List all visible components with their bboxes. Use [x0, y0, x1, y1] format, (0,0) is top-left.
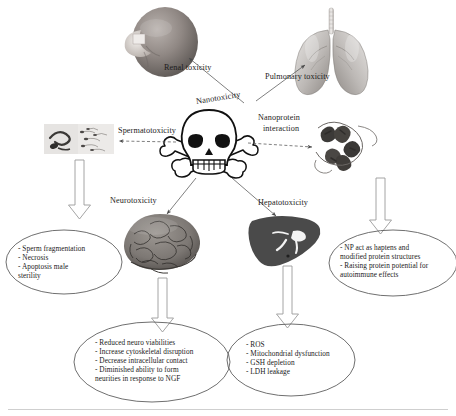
branch-label-spermato: Spermatotoxicity — [118, 126, 176, 135]
outcome-item: sterility — [18, 271, 114, 280]
diagram-canvas: Nanotoxicity Renal toxicity Pulmonary to… — [0, 0, 456, 416]
outcome-item: - Raising protein potential for — [340, 261, 452, 270]
outcome-item: - Decrease intracellular contact — [95, 356, 219, 365]
branch-label-hepato: Hepatotoxicity — [258, 198, 308, 207]
branch-label-pulmonary: Pulmonary toxicity — [265, 72, 330, 81]
hollow-arrow-hepato — [277, 266, 299, 328]
brain-icon — [124, 214, 200, 273]
outcome-item: - Increase cytoskeletal disruption — [95, 347, 219, 356]
outcome-item: - GSH depletion — [246, 358, 356, 367]
outcome-item: - Apoptosis male — [18, 262, 114, 271]
outcome-item: - ROS — [246, 340, 356, 349]
liver-icon — [248, 216, 320, 266]
sperm-micrograph-icon — [44, 124, 114, 154]
hollow-arrow-spermato — [69, 160, 91, 219]
outcome-text-hepato: - ROS - Mitochondrial dysfunction - GSH … — [246, 340, 356, 376]
outcome-text-neuro: - Reduced neuro viabilities - Increase c… — [95, 338, 219, 383]
outcome-text-spermato: - Sperm fragmentation - Necrosis - Apopt… — [18, 244, 114, 280]
outcome-item: - Diminished ability to form — [95, 365, 219, 374]
outcome-item: - Mitochondrial dysfunction — [246, 349, 356, 358]
bottom-rule — [8, 409, 448, 410]
branch-label-nanoprotein-2: interaction — [263, 124, 299, 133]
hollow-arrow-neuro — [152, 278, 174, 332]
outcome-item: neurities in response to NGF — [95, 374, 219, 383]
outcome-item: - Sperm fragmentation — [18, 244, 114, 253]
diagram-artwork — [0, 0, 456, 416]
outcome-item: autoimmune effects — [340, 270, 452, 279]
outcome-item: - NP act as haptens and — [340, 243, 452, 252]
lungs-icon — [295, 8, 368, 95]
outcome-item: modified protein structures — [340, 252, 452, 261]
branch-label-renal: Renal toxicity — [164, 63, 212, 72]
skull-and-crossbones-icon — [160, 110, 258, 178]
branch-label-nanoprotein-1: Nanoprotein — [258, 113, 300, 122]
outcome-item: - Necrosis — [18, 253, 114, 262]
branch-label-neuro: Neurotoxicity — [110, 196, 157, 205]
outcome-text-nanoprotein: - NP act as haptens and modified protein… — [340, 243, 452, 279]
outcome-item: - Reduced neuro viabilities — [95, 338, 219, 347]
outcome-item: - LDH leakage — [246, 367, 356, 376]
hollow-arrow-nanoprotein — [370, 178, 392, 234]
protein-ribbon-icon — [315, 122, 377, 173]
